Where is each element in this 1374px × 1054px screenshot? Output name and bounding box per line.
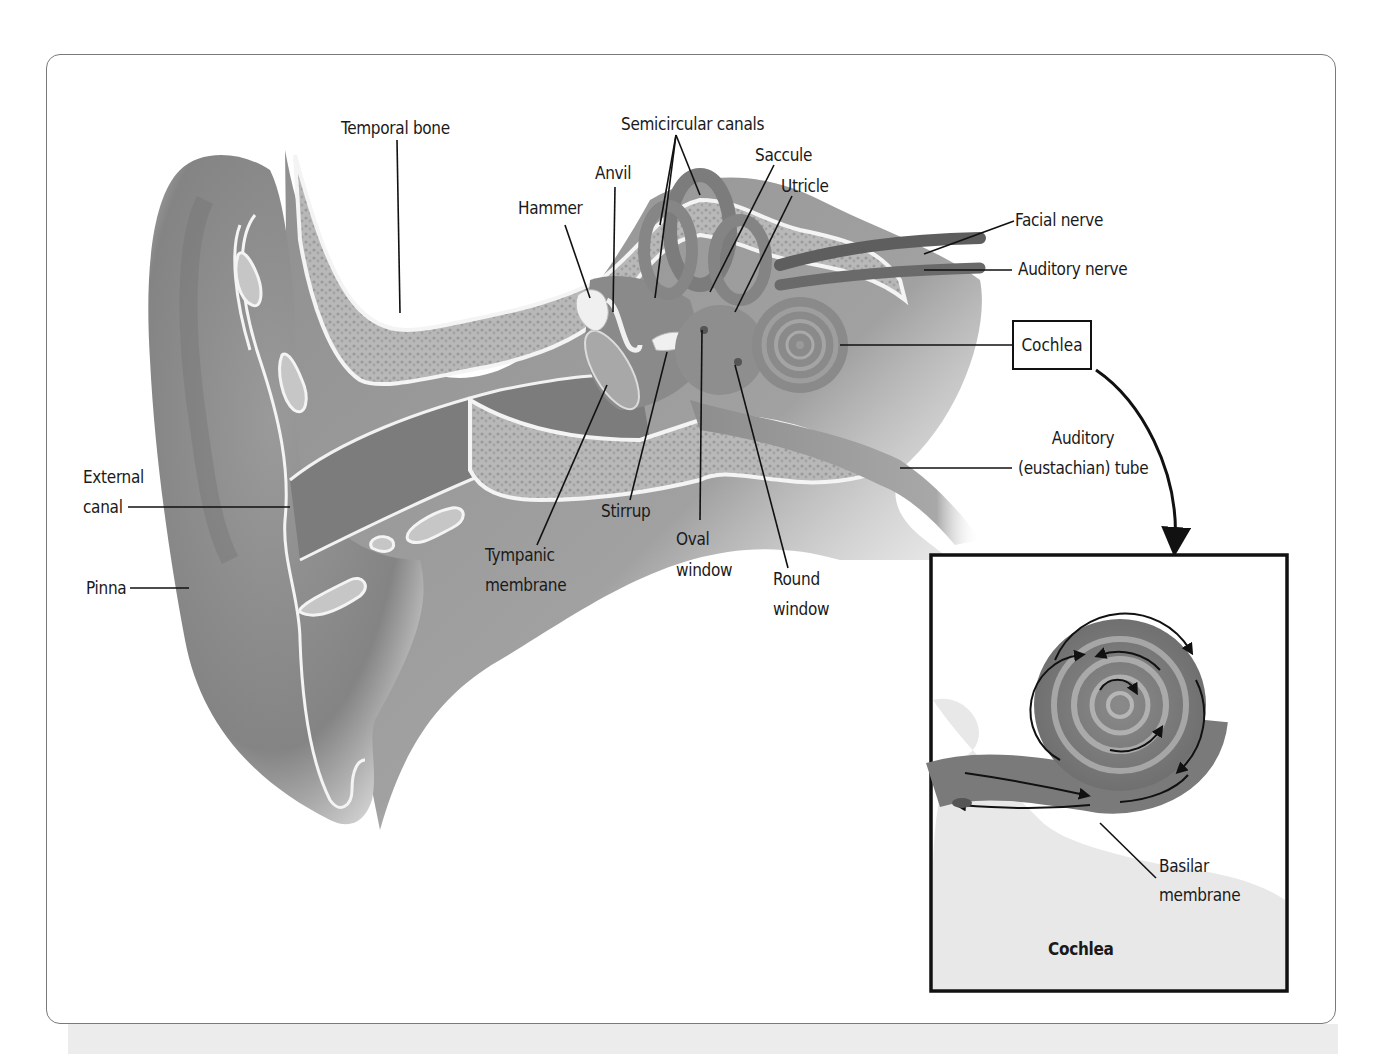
- label-external-canal-2: canal: [83, 492, 123, 522]
- label-cochlea-box: Cochlea: [1012, 320, 1092, 370]
- label-round-window-2: window: [773, 594, 829, 624]
- label-stirrup: Stirrup: [601, 496, 651, 526]
- leader-temporal-bone: [397, 140, 400, 313]
- label-utricle: Utricle: [781, 171, 829, 201]
- label-auditory-tube-1: Auditory: [1018, 423, 1148, 453]
- label-round-window-1: Round: [773, 564, 820, 594]
- inset-title: Cochlea: [1048, 934, 1114, 964]
- label-basilar-2: membrane: [1159, 880, 1240, 910]
- label-oval-window-2: window: [676, 555, 732, 585]
- label-oval-window-1: Oval: [676, 524, 710, 554]
- label-basilar-1: Basilar: [1159, 851, 1209, 881]
- label-auditory-nerve: Auditory nerve: [1018, 254, 1127, 284]
- label-semicircular-canals: Semicircular canals: [621, 109, 764, 139]
- label-anvil: Anvil: [595, 158, 631, 188]
- label-saccule: Saccule: [755, 140, 812, 170]
- label-pinna: Pinna: [86, 573, 126, 603]
- label-facial-nerve: Facial nerve: [1015, 205, 1103, 235]
- cochlea-main: [752, 297, 848, 393]
- label-tympanic-1: Tympanic: [485, 540, 555, 570]
- label-tympanic-2: membrane: [485, 570, 566, 600]
- label-external-canal-1: External: [83, 462, 144, 492]
- label-auditory-tube-2: (eustachian) tube: [1018, 453, 1148, 483]
- label-temporal-bone: Temporal bone: [341, 113, 450, 143]
- cochlea-inset: [931, 555, 1287, 991]
- leader-hammer: [565, 225, 590, 298]
- label-hammer: Hammer: [518, 193, 583, 223]
